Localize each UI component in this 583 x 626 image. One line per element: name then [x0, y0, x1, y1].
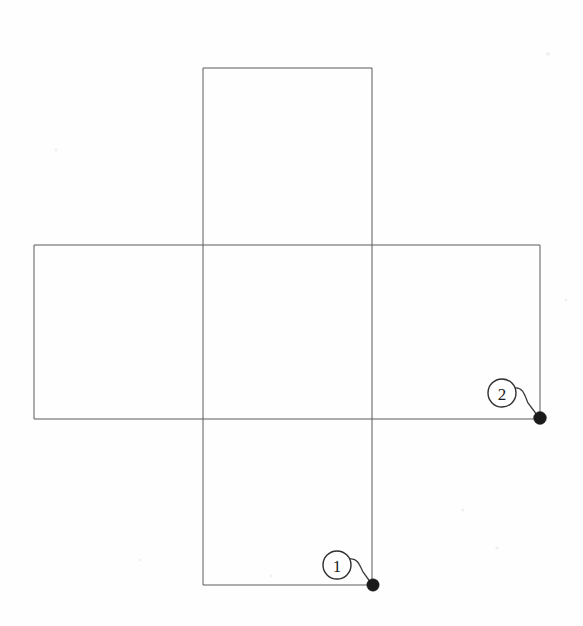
- scan-noise-layer: [55, 52, 568, 577]
- scan-speck: [546, 52, 550, 56]
- scan-speck: [139, 559, 142, 562]
- callout-2-group[interactable]: 2: [488, 379, 546, 424]
- callout-1-leader-line: [350, 559, 371, 583]
- scan-speck: [55, 149, 58, 152]
- vertical-panel-outline: [203, 68, 372, 585]
- scan-speck: [270, 575, 273, 578]
- callout-2-leader-line: [515, 388, 537, 415]
- technical-line-drawing: 1 2: [0, 0, 583, 626]
- scan-speck: [495, 546, 498, 549]
- callout-1-label: 1: [333, 557, 342, 576]
- callout-2-vertex-dot: [534, 412, 547, 425]
- horizontal-panel-outline: [34, 245, 540, 419]
- drawing-canvas: 1 2: [0, 0, 583, 626]
- callout-1-vertex-dot: [367, 579, 379, 591]
- callout-2-label: 2: [498, 385, 507, 404]
- panel-outlines: [34, 68, 540, 585]
- scan-speck: [565, 299, 568, 302]
- scan-speck: [461, 508, 464, 511]
